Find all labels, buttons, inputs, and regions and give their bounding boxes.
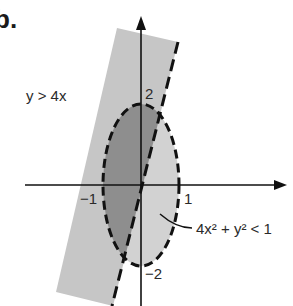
label-y-greater-4x: y > 4x	[26, 88, 66, 103]
part-label: b.	[0, 6, 17, 32]
inequality-graph: b. y > 4x 4x² + y² < 1 −1 1 2 −2	[0, 0, 293, 306]
graph-canvas	[0, 0, 293, 306]
tick-y-pos-2: 2	[145, 86, 153, 101]
label-ellipse-inequality: 4x² + y² < 1	[196, 221, 272, 236]
tick-x-pos-1: 1	[184, 191, 192, 206]
tick-x-neg-1: −1	[80, 191, 97, 206]
y-axis-arrow-icon	[136, 16, 146, 30]
tick-y-neg-2: −2	[145, 266, 162, 281]
x-axis-arrow-icon	[274, 180, 287, 190]
